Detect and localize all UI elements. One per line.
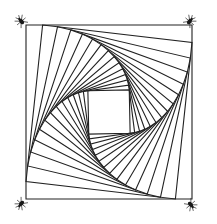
bug-bottom-right-icon — [183, 197, 199, 213]
bug-top-right-icon — [182, 13, 198, 29]
nested-square — [73, 74, 145, 149]
inner-square — [88, 90, 130, 134]
nested-squares-group — [26, 25, 192, 199]
nested-square — [83, 85, 134, 139]
nested-square — [35, 34, 184, 190]
nested-square — [45, 45, 173, 180]
nested-square — [28, 27, 191, 198]
whirling-squares-figure — [0, 0, 217, 224]
nested-square — [31, 30, 188, 194]
nested-square — [68, 69, 151, 156]
